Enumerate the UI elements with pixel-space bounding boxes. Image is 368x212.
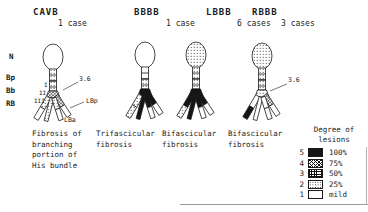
legend-row-1: 1 mild [296,190,347,199]
legend-row-2: 2 25% [296,180,343,189]
legend-swatch-100-icon [308,148,323,157]
case-count-bbbb: 1 case [166,19,195,28]
legend-grade: 2 [296,180,304,189]
level-label-2: II [39,89,46,96]
panel-title-rbbb: RBBB [252,7,278,17]
anatomy-label-bb: Bb [6,86,15,95]
legend-swatch-mild-icon [308,190,323,199]
figure-canvas: CAVB BBBB LBBB RBBB 1 case 1 case 6 case… [0,0,368,212]
cavb-measure-leader-line [63,82,78,90]
rbbb-bundle-drawing [243,43,280,121]
level-label-1: I [44,81,48,88]
legend-grade: 5 [296,148,304,157]
cavb-bundle-drawing [34,44,71,122]
cavb-measure-label: 3.6 [79,75,91,83]
legend-row-3: 3 50% [296,169,343,178]
bottom-rule [180,204,368,205]
rbbb-measure-leader-line [270,84,287,91]
legend-swatch-75-icon [308,159,323,168]
caption-bbbb: Trifascicular fibrosis [96,129,155,150]
panel-title-lbbb: LBBB [206,7,232,17]
lba-label: LBa [64,116,76,124]
panel-title-cavb: CAVB [33,7,59,17]
case-count-cavb: 1 case [58,19,87,28]
case-count-rbbb: 3 cases [281,19,315,28]
legend-percent: 50% [329,169,343,178]
legend-swatch-50-icon [308,169,323,178]
legend-row-5: 5 100% [296,148,347,157]
level-label-3: III [34,97,45,104]
legend-swatch-25-icon [308,180,323,189]
caption-rbbb: Bifascicular fibrosis [228,129,282,150]
lbp-label: LBp [86,97,98,105]
panel-title-bbbb: BBBB [134,7,160,17]
anatomy-label-n: N [9,52,14,61]
rbbb-measure-label: 3.6 [288,76,300,84]
legend-percent: 25% [329,180,343,189]
legend-percent: 100% [329,148,347,157]
legend-percent: 75% [329,159,343,168]
anatomy-label-rb: RB [6,99,15,108]
anatomy-label-bp: Bp [6,73,15,82]
lbp-leader-line [70,102,84,108]
caption-lbbb: Bifascicular fibrosis [162,129,216,150]
legend-grade: 1 [296,190,304,199]
caption-cavb: Fibrosis of branching portion of His bun… [32,129,82,171]
right-rule [366,147,367,205]
legend-grade: 4 [296,159,304,168]
legend-grade: 3 [296,169,304,178]
legend-title: Degree of lesions [304,125,364,144]
lbbb-bundle-drawing [177,42,214,120]
legend-row-4: 4 75% [296,159,343,168]
bbbb-bundle-drawing [126,42,163,120]
case-count-lbbb: 6 cases [237,19,271,28]
legend-percent: mild [329,190,347,199]
